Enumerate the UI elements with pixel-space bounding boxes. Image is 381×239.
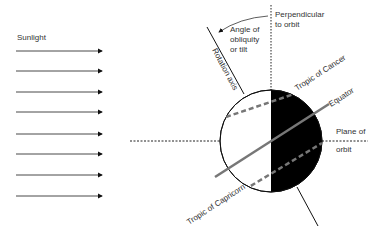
rotation-axis-line-lower <box>297 187 318 226</box>
angle-label-2: obliquity <box>230 35 259 44</box>
earth-tilt-diagram: Sunlight Perpendicular to orbit Angle of… <box>0 0 381 239</box>
sun-rays <box>16 51 102 196</box>
earth-globe <box>215 88 329 194</box>
night-side <box>271 88 323 194</box>
plane-of-orbit-label-1: Plane of <box>336 127 366 136</box>
tropic-of-capricorn-label: Tropic of Capricorn <box>185 182 247 226</box>
plane-of-orbit-label-2: orbit <box>336 145 352 154</box>
angle-label-1: Angle of <box>230 25 260 34</box>
equator-label: Equator <box>327 86 356 109</box>
tropic-of-cancer-label: Tropic of Cancer <box>293 53 348 93</box>
perpendicular-label-2: to orbit <box>275 20 300 29</box>
angle-label-3: or tilt <box>230 45 248 54</box>
perpendicular-label-1: Perpendicular <box>275 10 325 19</box>
sunlight-label: Sunlight <box>17 33 47 42</box>
